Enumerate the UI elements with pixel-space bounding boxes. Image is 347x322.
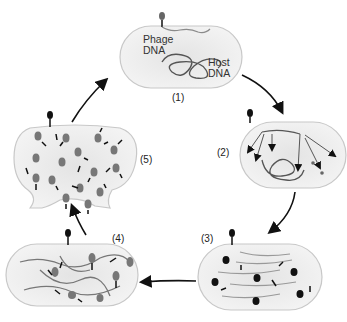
host-dna-label-line2: DNA xyxy=(208,68,230,79)
arrow-3-to-4 xyxy=(142,281,196,282)
phage-dna-label: Phage DNA xyxy=(143,34,173,56)
step-label-2: (2) xyxy=(217,148,229,158)
step-label-3: (3) xyxy=(201,234,213,244)
cell-step-3 xyxy=(198,229,322,310)
step-label-5: (5) xyxy=(140,155,152,165)
host-dna-label: Host DNA xyxy=(208,57,230,79)
phage-icon xyxy=(229,229,235,245)
step-label-1: (1) xyxy=(172,93,184,103)
arrow-1-to-2 xyxy=(242,75,282,112)
cell-step-2 xyxy=(240,109,346,188)
phage-icon xyxy=(159,12,165,27)
arrow-2-to-3 xyxy=(270,192,295,232)
phage-icon xyxy=(247,109,253,123)
arrow-4-to-5 xyxy=(72,206,86,235)
phage-icon xyxy=(47,111,53,127)
lytic-cycle-diagram xyxy=(0,0,347,322)
phage-icon xyxy=(65,229,71,245)
step-label-4: (4) xyxy=(112,234,124,244)
phage-dna-label-line2: DNA xyxy=(143,45,173,56)
cell-step-5 xyxy=(14,111,137,214)
arrow-5-to-1 xyxy=(72,80,106,122)
